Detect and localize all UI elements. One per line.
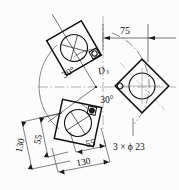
plate-upper-left-bolt-hole xyxy=(91,50,98,57)
plate-right-center-cross xyxy=(124,68,160,104)
right-plate-axis xyxy=(120,63,165,110)
dimension-bottom-55-arrow-right xyxy=(99,144,105,149)
dimension-bottom-130-ext-right xyxy=(104,140,110,162)
dimension-bottom-55-arrow-left xyxy=(77,149,83,154)
dimension-75 xyxy=(103,24,176,62)
technical-drawing-canvas: 75 30° 30° D₃ 3 × ϕ 23 130 55 xyxy=(0,0,179,190)
dimension-left-55-arrow-bottom xyxy=(44,152,49,158)
dimension-left-55-arrow-top xyxy=(39,118,44,124)
plate-lower-left-bolt-hole xyxy=(89,108,95,114)
dimension-left-55-label: 55 xyxy=(32,133,44,145)
dimension-bottom-55-ext-right xyxy=(101,128,106,146)
dimension-75-arrow-left xyxy=(103,36,110,40)
dimension-left-130-arrow-bottom xyxy=(28,164,33,170)
dimension-bottom-130-arrow-left xyxy=(59,169,65,174)
dimension-left-130-arrow-top xyxy=(21,122,26,128)
dimension-left-130-label: 130 xyxy=(14,137,27,153)
center-diameter-label: D₃ xyxy=(96,64,110,77)
center-point-dot xyxy=(95,86,97,88)
center-point-mark xyxy=(95,86,97,88)
plate-lower-left-bore-cross-b xyxy=(67,112,90,135)
dimension-75-arrow-right xyxy=(148,36,155,40)
dimension-75-label: 75 xyxy=(120,25,130,36)
dimension-bottom-130-arrow-right xyxy=(103,160,109,165)
plate-upper-left-bore-cross-b xyxy=(61,35,87,61)
engineering-drawing-svg: 75 30° 30° D₃ 3 × ϕ 23 130 55 xyxy=(0,0,179,190)
hole-callout-label: 3 × ϕ 23 xyxy=(113,142,145,152)
dimension-left-55-ext-bottom xyxy=(48,152,68,157)
dimension-bottom-130-ext-left xyxy=(52,148,58,172)
angle-lower-label: 30° xyxy=(100,95,114,105)
dimension-left-group xyxy=(21,113,70,170)
dimension-bottom-130-label: 130 xyxy=(75,156,91,169)
dimension-left-130-ext-bottom xyxy=(32,161,70,169)
plate-upper-left xyxy=(47,21,102,76)
plate-lower-left xyxy=(54,99,101,146)
